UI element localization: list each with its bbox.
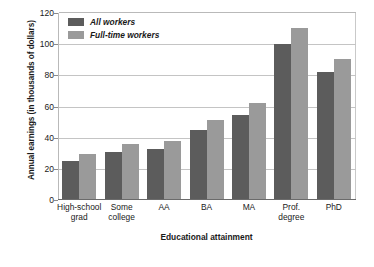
legend-swatch-icon: [68, 31, 84, 39]
bar: [317, 72, 334, 200]
x-axis-title: Educational attainment: [58, 232, 355, 242]
bar-group: [232, 13, 266, 200]
bar-group: [274, 13, 308, 200]
legend-swatch-icon: [68, 18, 84, 26]
y-axis-ticks: 020406080100120: [0, 0, 54, 267]
bar: [334, 59, 351, 200]
bar: [190, 130, 207, 200]
legend: All workers Full-time workers: [68, 16, 188, 42]
x-axis-line: [58, 199, 356, 200]
legend-label: All workers: [90, 17, 135, 27]
bar: [232, 115, 249, 200]
legend-item: Full-time workers: [68, 29, 188, 40]
y-axis-tick-label: 20: [4, 164, 54, 174]
y-axis-tick-label: 60: [4, 102, 54, 112]
y-axis-tick-label: 120: [4, 8, 54, 18]
x-axis-tick-labels: High-schoolgradSomecollegeAABAMAProf.deg…: [58, 202, 355, 232]
bar-group: [190, 13, 224, 200]
bar: [122, 144, 139, 200]
y-axis-tick-label: 40: [4, 133, 54, 143]
x-axis-tick-label: PhD: [294, 202, 374, 212]
y-axis-tick-label: 100: [4, 39, 54, 49]
bar: [62, 161, 79, 200]
bar: [79, 154, 96, 200]
bar: [105, 152, 122, 200]
bar: [164, 141, 181, 200]
legend-label: Full-time workers: [90, 30, 159, 40]
bar: [147, 149, 164, 200]
bar: [249, 103, 266, 200]
bar: [291, 28, 308, 200]
bar: [274, 44, 291, 200]
bar-group: [317, 13, 351, 200]
y-axis-tick-label: 80: [4, 70, 54, 80]
legend-item: All workers: [68, 16, 188, 27]
bar-chart: Annual earnings (in thousands of dollars…: [0, 0, 374, 267]
bar: [207, 120, 224, 200]
